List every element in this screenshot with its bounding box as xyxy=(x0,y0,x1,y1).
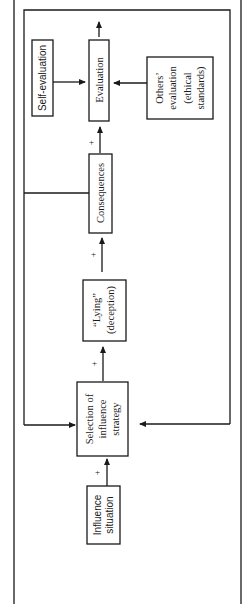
plus-label: + xyxy=(95,467,100,477)
influence-deception-diagram: Influence situation + Selection of influ… xyxy=(0,0,249,614)
node-consequences: Consequences xyxy=(89,154,112,233)
influence-situation-line-2: situation xyxy=(104,496,115,533)
node-others-evaluation: Others’ evaluation (ethical standards) xyxy=(147,57,213,119)
selection-line-1: Selection of xyxy=(84,393,95,444)
selection-line-2: influence xyxy=(97,399,108,438)
evaluation-label: Evaluation xyxy=(94,57,105,103)
others-evaluation-line-1: Others’ xyxy=(154,72,165,104)
influence-situation-line-1: Influence xyxy=(92,494,103,535)
selection-line-3: strategy xyxy=(110,402,121,436)
node-influence-situation: Influence situation xyxy=(87,486,120,544)
self-evaluation-label: Self-evaluation xyxy=(37,45,48,111)
plus-label: + xyxy=(92,358,97,368)
plus-label: + xyxy=(89,137,94,147)
node-lying: “Lying” (deception) xyxy=(83,280,126,341)
others-evaluation-line-4: standards) xyxy=(195,66,207,110)
lying-line-1: “Lying” xyxy=(91,293,102,327)
others-evaluation-line-2: evaluation xyxy=(167,65,178,109)
node-evaluation: Evaluation xyxy=(89,40,109,121)
consequences-label: Consequences xyxy=(95,163,106,223)
plus-label: + xyxy=(91,249,96,259)
lying-line-2: (deception) xyxy=(105,286,117,334)
others-evaluation-line-3: (ethical xyxy=(182,72,194,104)
node-selection-strategy: Selection of influence strategy xyxy=(77,382,128,456)
node-self-evaluation: Self-evaluation xyxy=(32,40,53,116)
